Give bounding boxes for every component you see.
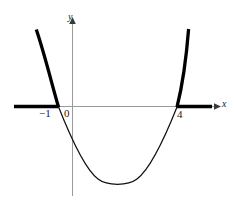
parabola-bold-left-branch xyxy=(36,30,58,108)
plot-canvas xyxy=(0,0,235,211)
origin-label: 0 xyxy=(64,108,70,119)
x-tick-label-neg-one: −1 xyxy=(39,108,51,119)
parabola-bold-right-branch xyxy=(177,29,189,107)
x-axis-label: x xyxy=(222,99,226,109)
x-tick-label-four: 4 xyxy=(177,109,183,120)
parabola-thin-arc xyxy=(58,107,177,185)
y-axis-label: y xyxy=(68,12,72,22)
x-axis-arrowhead xyxy=(214,103,221,110)
parabola-inequality-figure: −1 0 4 x y xyxy=(0,0,235,211)
